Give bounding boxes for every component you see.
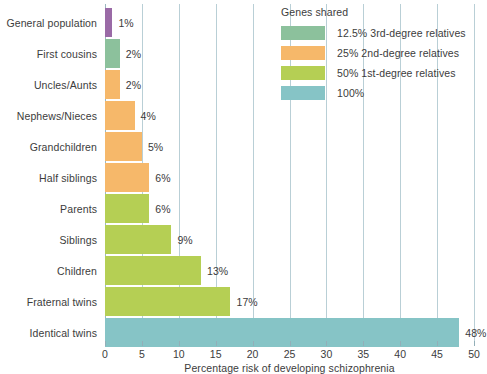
category-label-row: Siblings <box>0 225 97 254</box>
category-label-row: Parents <box>0 194 97 223</box>
category-label: Grandchildren <box>30 141 97 153</box>
x-tick-label: 0 <box>102 348 108 360</box>
legend-entries: 12.5% 3rd-degree relatives25% 2nd-degree… <box>281 24 481 101</box>
category-label: Uncles/Aunts <box>34 79 97 91</box>
bar <box>105 8 112 37</box>
legend-item: 25% 2nd-degree relatives <box>281 44 481 61</box>
bar-row: 6% <box>105 163 474 192</box>
legend-swatch <box>281 86 325 100</box>
bar <box>105 194 149 223</box>
x-tick-label: 45 <box>431 348 443 360</box>
category-label-row: Grandchildren <box>0 132 97 161</box>
x-tick-mark <box>363 341 364 346</box>
category-label: Half siblings <box>39 172 97 184</box>
bar <box>105 287 230 316</box>
category-label-row: Uncles/Aunts <box>0 70 97 99</box>
category-label-row: Half siblings <box>0 163 97 192</box>
legend-swatch <box>281 66 325 80</box>
bar-value-label: 1% <box>118 17 133 29</box>
x-tick-label: 35 <box>357 348 369 360</box>
legend-item: 50% 1st-degree relatives <box>281 64 481 81</box>
x-tick-label: 10 <box>173 348 185 360</box>
bar-value-label: 4% <box>141 110 156 122</box>
bar-row: 17% <box>105 287 474 316</box>
category-label-row: General population <box>0 8 97 37</box>
category-label: General population <box>6 17 97 29</box>
bar <box>105 225 171 254</box>
x-tick-mark <box>400 341 401 346</box>
x-tick-mark <box>474 341 475 346</box>
category-label: Fraternal twins <box>27 296 97 308</box>
x-tick-mark <box>437 341 438 346</box>
legend-title: Genes shared <box>281 6 481 18</box>
category-label: Parents <box>60 203 97 215</box>
bar-row: 4% <box>105 101 474 130</box>
x-tick-label: 40 <box>394 348 406 360</box>
x-tick-label: 5 <box>139 348 145 360</box>
x-tick-label: 25 <box>284 348 296 360</box>
category-label: Nephews/Nieces <box>17 110 97 122</box>
category-label-row: Identical twins <box>0 318 97 347</box>
bar <box>105 256 201 285</box>
x-tick-label: 20 <box>247 348 259 360</box>
x-tick-mark <box>105 341 106 346</box>
category-label: Children <box>57 265 97 277</box>
legend-label: 50% 1st-degree relatives <box>337 67 456 79</box>
bar-row: 9% <box>105 225 474 254</box>
bar <box>105 101 135 130</box>
x-axis-title: Percentage risk of developing schizophre… <box>105 362 474 374</box>
y-axis-category-labels: General populationFirst cousinsUncles/Au… <box>0 0 97 341</box>
category-label: Identical twins <box>30 327 97 339</box>
bar-value-label: 6% <box>155 203 170 215</box>
bar <box>105 39 120 68</box>
x-tick-label: 30 <box>321 348 333 360</box>
x-tick-mark <box>290 341 291 346</box>
bar-value-label: 9% <box>177 234 192 246</box>
legend: Genes shared 12.5% 3rd-degree relatives2… <box>281 6 481 104</box>
category-label-row: Fraternal twins <box>0 287 97 316</box>
legend-label: 25% 2nd-degree relatives <box>337 47 459 59</box>
category-label: First cousins <box>37 48 97 60</box>
legend-swatch <box>281 26 325 40</box>
bar-value-label: 5% <box>148 141 163 153</box>
bar <box>105 132 142 161</box>
x-tick-mark <box>253 341 254 346</box>
bar-value-label: 2% <box>126 79 141 91</box>
legend-swatch <box>281 46 325 60</box>
x-tick-mark <box>142 341 143 346</box>
bar <box>105 70 120 99</box>
legend-item: 12.5% 3rd-degree relatives <box>281 24 481 41</box>
x-tick-mark <box>326 341 327 346</box>
x-tick-label: 15 <box>210 348 222 360</box>
bar-value-label: 17% <box>236 296 257 308</box>
x-tick-mark <box>216 341 217 346</box>
legend-label: 100% <box>337 87 364 99</box>
x-tick-label: 50 <box>468 348 480 360</box>
bar-row: 13% <box>105 256 474 285</box>
bar-value-label: 48% <box>465 327 486 339</box>
bar-value-label: 6% <box>155 172 170 184</box>
category-label: Siblings <box>59 234 97 246</box>
legend-label: 12.5% 3rd-degree relatives <box>337 27 466 39</box>
x-tick-mark <box>179 341 180 346</box>
category-label-row: Children <box>0 256 97 285</box>
bar-row: 5% <box>105 132 474 161</box>
bar-value-label: 2% <box>126 48 141 60</box>
category-label-row: Nephews/Nieces <box>0 101 97 130</box>
category-label-row: First cousins <box>0 39 97 68</box>
legend-item: 100% <box>281 84 481 101</box>
bar <box>105 163 149 192</box>
bar-value-label: 13% <box>207 265 228 277</box>
bar-row: 6% <box>105 194 474 223</box>
